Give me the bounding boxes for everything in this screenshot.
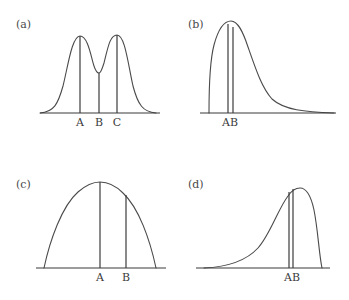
panel-c-label: (c) [16,178,31,191]
panel-d: (d) AB [188,178,330,284]
panel-b-tick-label-AB: AB [221,116,238,129]
panel-d-label: (d) [188,178,204,191]
panel-b-label: (b) [188,18,204,31]
panel-c-tick-label-B: B [122,271,130,284]
panel-b: (b) AB [188,18,336,129]
panel-c: (c) A B [16,178,166,284]
panel-a-tick-label-A: A [75,116,85,129]
panel-d-curve [204,188,322,268]
panel-a-curve [40,35,156,113]
panel-c-tick-label-A: A [95,271,105,284]
panel-a-tick-label-C: C [113,116,121,129]
panel-a: (a) A B C [16,18,160,129]
panel-a-label: (a) [16,18,31,31]
figure-canvas: (a) A B C (b) AB (c) A B (d) AB [0,0,349,300]
panel-a-tick-label-B: B [95,116,103,129]
panel-d-tick-label-AB: AB [283,271,300,284]
